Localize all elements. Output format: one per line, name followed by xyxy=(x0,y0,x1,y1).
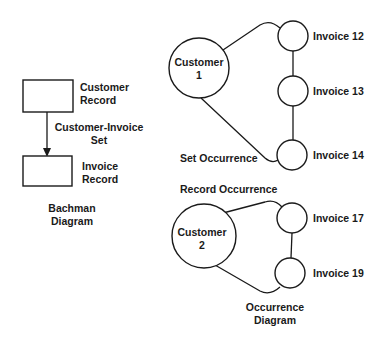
invoice-record-label-line2: Record xyxy=(82,173,118,185)
customer-record-box xyxy=(23,80,73,112)
set-occurrence-1: Customer 1 Invoice 12 Invoice 13 Invoice… xyxy=(169,21,364,170)
bachman-diagram: Customer Record Customer-Invoice Set Inv… xyxy=(23,80,144,227)
occurrence-caption-line2: Diagram xyxy=(254,314,296,326)
customer-2-label-line1: Customer xyxy=(177,226,226,238)
owner-to-first-link xyxy=(223,23,280,50)
invoice-chain-link xyxy=(291,233,292,258)
invoice-14-node xyxy=(277,140,307,170)
invoice-record-box xyxy=(23,156,72,186)
bachman-caption-line1: Bachman xyxy=(48,202,95,214)
invoice-13-node xyxy=(278,76,308,106)
customer-2-label-line2: 2 xyxy=(199,239,205,251)
invoice-17-node xyxy=(277,203,307,233)
set-label-line2: Set xyxy=(91,134,108,146)
invoice-12-node xyxy=(278,21,308,51)
invoice-19-node xyxy=(275,258,305,288)
record-occurrence-label: Record Occurrence xyxy=(180,183,278,195)
customer-record-label-line2: Record xyxy=(80,94,116,106)
bachman-caption-line2: Diagram xyxy=(51,215,93,227)
invoice-record-label-line1: Invoice xyxy=(82,160,118,172)
last-to-owner-link xyxy=(215,265,280,293)
customer-1-label-line1: Customer xyxy=(174,56,223,68)
customer-record-label-line1: Customer xyxy=(80,81,129,93)
invoice-14-label: Invoice 14 xyxy=(313,149,364,161)
customer-1-node xyxy=(169,38,229,98)
invoice-17-label: Invoice 17 xyxy=(313,212,364,224)
set-occurrence-2: Customer 2 Invoice 17 Invoice 19 Occurre… xyxy=(172,201,364,326)
occurrence-caption-line1: Occurrence xyxy=(246,301,305,313)
invoice-13-label: Invoice 13 xyxy=(313,85,364,97)
diagram-canvas: Customer Record Customer-Invoice Set Inv… xyxy=(0,0,387,342)
set-occurrence-label: Set Occurrence xyxy=(180,152,258,164)
invoice-12-label: Invoice 12 xyxy=(313,30,364,42)
customer-1-label-line2: 1 xyxy=(196,69,202,81)
set-label-line1: Customer-Invoice xyxy=(55,121,144,133)
owner-to-first-link xyxy=(223,201,282,213)
invoice-19-label: Invoice 19 xyxy=(313,267,364,279)
